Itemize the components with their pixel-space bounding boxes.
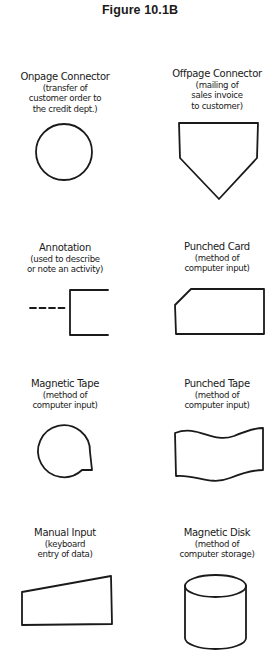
magnetic-disk-icon <box>185 575 246 649</box>
annotation-icon <box>30 290 108 335</box>
punched-tape-icon <box>175 428 263 481</box>
offpage-connector-icon <box>179 123 258 199</box>
magnetic-tape-icon <box>38 425 92 477</box>
flowchart-symbols-canvas <box>0 0 280 664</box>
onpage-connector-icon <box>36 124 92 180</box>
manual-input-icon <box>22 576 112 625</box>
punched-card-icon <box>175 289 264 334</box>
